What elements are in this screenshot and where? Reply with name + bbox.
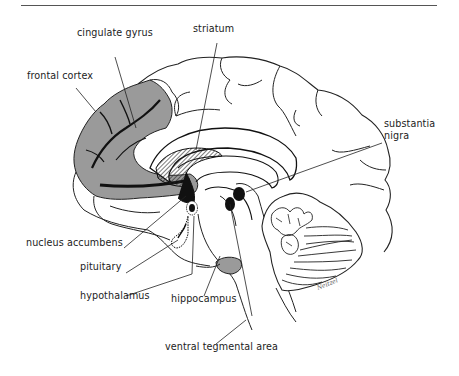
label-nucleus-accumbens: nucleus accumbens [26, 237, 123, 248]
label-frontal-cortex: frontal cortex [27, 70, 93, 81]
label-substantia-nigra-line1: substantia [384, 118, 435, 129]
leader-line-pituitary [126, 240, 178, 273]
leader-line-hippocampus [204, 256, 220, 296]
label-hippocampus: hippocampus [171, 293, 237, 304]
label-hypothalamus: hypothalamus [80, 290, 150, 301]
cerebellum [262, 193, 362, 291]
substantia-nigra-region [233, 187, 245, 201]
hippocampus-region [216, 257, 242, 274]
label-substantia-nigra-line2: nigra [384, 130, 409, 141]
brain-diagram: Neitzel cingulate gyrus striatum frontal… [0, 0, 459, 376]
label-pituitary: pituitary [80, 261, 121, 272]
label-ventral-tegmental-area: ventral tegmental area [165, 341, 278, 352]
leader-line-frontal [76, 88, 96, 112]
label-striatum: striatum [193, 23, 234, 34]
pituitary-region [172, 216, 189, 248]
label-cingulate-gyrus: cingulate gyrus [77, 27, 153, 38]
brain-illustration: Neitzel [0, 0, 459, 376]
